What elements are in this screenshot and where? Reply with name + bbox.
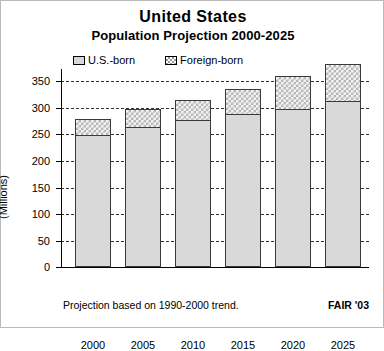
chart-credit: FAIR '03 (328, 299, 369, 311)
gridline-300 (61, 108, 369, 109)
bar-segment-foreign-born (275, 76, 311, 110)
y-tick-label: 200 (32, 156, 50, 167)
legend-item-foreign-born: Foreign-born (165, 54, 243, 66)
bar-segment-us-born (275, 109, 311, 267)
chart-legend: U.S.-born Foreign-born (73, 54, 243, 66)
x-tick-label: 2020 (268, 339, 318, 351)
legend-swatch-icon-us-born (73, 56, 85, 65)
x-tick-label: 2005 (118, 339, 168, 351)
y-axis-title: (Millions) (0, 175, 9, 219)
gridline-350 (61, 81, 369, 82)
bar-segment-foreign-born (125, 109, 161, 128)
legend-label-foreign-born: Foreign-born (180, 54, 243, 66)
bar-segment-us-born (175, 120, 211, 267)
y-tick-label: 0 (44, 262, 50, 273)
bar-segment-foreign-born (225, 89, 261, 115)
y-tick-label: 300 (32, 103, 50, 114)
bar-segment-foreign-born (175, 100, 211, 121)
y-tick-label: 250 (32, 129, 50, 140)
y-tick-label: 150 (32, 183, 50, 194)
x-tick-label: 2015 (218, 339, 268, 351)
bar-segment-us-born (325, 101, 361, 267)
plot-area: 2000 2005 2010 2015 2020 2025 (61, 69, 369, 268)
y-tick-label: 100 (32, 209, 50, 220)
x-tick-label: 2025 (318, 339, 368, 351)
bar-segment-us-born (125, 127, 161, 267)
bar-segment-us-born (75, 135, 111, 267)
legend-item-us-born: U.S.-born (73, 54, 135, 66)
y-axis-line (61, 69, 62, 268)
bar-2005[interactable] (125, 109, 161, 267)
x-tick-label: 2000 (68, 339, 118, 351)
bar-2015[interactable] (225, 89, 261, 267)
chart-subtitle: Population Projection 2000-2025 (1, 28, 384, 43)
y-tick-label: 50 (38, 236, 50, 247)
bar-2020[interactable] (275, 76, 311, 267)
bar-segment-us-born (225, 114, 261, 267)
chart-title: United States (1, 8, 384, 26)
bar-segment-foreign-born (325, 64, 361, 102)
bar-2000[interactable] (75, 119, 111, 267)
bar-2025[interactable] (325, 64, 361, 267)
y-axis-tick-labels: 350 300 250 200 150 100 50 0 (Millions) (1, 69, 59, 268)
bar-2010[interactable] (175, 100, 211, 267)
x-tick-label: 2010 (168, 339, 218, 351)
y-tick-label: 350 (32, 76, 50, 87)
legend-label-us-born: U.S.-born (88, 54, 135, 66)
chart-footnote: Projection based on 1990-2000 trend. (63, 299, 239, 311)
x-axis-line (61, 267, 369, 268)
legend-swatch-icon-foreign-born (165, 56, 177, 65)
bar-segment-foreign-born (75, 119, 111, 136)
